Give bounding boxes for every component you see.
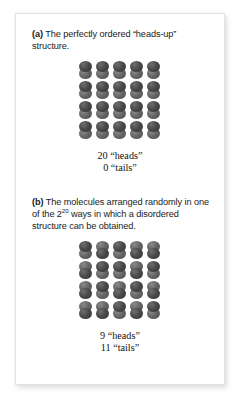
molecule-lobe-top <box>96 261 109 272</box>
molecule-heads <box>146 81 163 101</box>
molecule-lobe-top <box>96 281 109 292</box>
molecule-tails <box>129 261 146 281</box>
panel-a-label: (a) <box>32 29 43 39</box>
molecule-lobe-bottom <box>79 308 92 319</box>
molecule-heads <box>95 121 112 141</box>
molecule-lobe-top <box>79 121 92 132</box>
molecule-heads <box>95 281 112 301</box>
molecule-heads <box>95 61 112 81</box>
molecule-heads <box>129 281 146 301</box>
molecule-tails <box>112 281 129 301</box>
molecule-lobe-bottom <box>96 248 109 259</box>
molecule-heads <box>95 81 112 101</box>
molecule-heads <box>146 101 163 121</box>
figure-card: (a) The perfectly ordered “heads-up” str… <box>15 13 225 385</box>
molecule-lobe-top <box>113 81 126 92</box>
panel-a-caption-text: The perfectly ordered “heads-up” structu… <box>32 29 176 51</box>
molecule-lobe-top <box>147 61 160 72</box>
molecule-heads <box>129 81 146 101</box>
molecule-lobe-top <box>130 281 143 292</box>
molecule-heads <box>129 61 146 81</box>
panel-a-tails-count: 0 “tails” <box>16 162 224 174</box>
panel-a-heads-count: 20 “heads” <box>16 150 224 162</box>
molecule-lobe-top <box>147 301 160 312</box>
molecule-tails <box>78 281 95 301</box>
molecule-lobe-top <box>113 301 126 312</box>
panel-b-caption: (b) The molecules arranged randomly in o… <box>32 196 214 232</box>
molecule-heads <box>95 101 112 121</box>
molecule-lobe-bottom <box>113 288 126 299</box>
molecule-tails <box>146 281 163 301</box>
molecule-heads <box>78 81 95 101</box>
molecule-heads <box>146 301 163 321</box>
molecule-lobe-top <box>96 121 109 132</box>
molecule-tails <box>78 301 95 321</box>
molecule-lobe-top <box>130 101 143 112</box>
molecule-tails <box>95 301 112 321</box>
molecule-heads <box>129 101 146 121</box>
molecule-heads <box>95 261 112 281</box>
molecule-lobe-bottom <box>96 308 109 319</box>
molecule-heads <box>112 301 129 321</box>
molecule-heads <box>146 121 163 141</box>
molecule-lobe-top <box>113 261 126 272</box>
molecule-heads <box>78 121 95 141</box>
molecule-lobe-top <box>130 61 143 72</box>
molecule-lobe-bottom <box>147 248 160 259</box>
figure-page: (a) The perfectly ordered “heads-up” str… <box>0 0 240 399</box>
panel-b-exponent: 20 <box>62 207 69 214</box>
molecule-lobe-bottom <box>130 268 143 279</box>
figure-panel-a: (a) The perfectly ordered “heads-up” str… <box>16 28 224 175</box>
molecule-lobe-top <box>130 121 143 132</box>
molecule-lobe-top <box>147 261 160 272</box>
molecule-lobe-top <box>113 61 126 72</box>
molecule-lobe-top <box>79 241 92 252</box>
molecule-lobe-top <box>79 101 92 112</box>
molecule-lobe-bottom <box>130 248 143 259</box>
molecule-heads <box>78 241 95 261</box>
molecule-lobe-top <box>113 101 126 112</box>
molecule-tails <box>95 241 112 261</box>
molecule-lobe-top <box>130 81 143 92</box>
panel-b-heads-count: 9 “heads” <box>16 330 224 342</box>
molecule-lobe-top <box>147 81 160 92</box>
molecule-heads <box>112 241 129 261</box>
molecule-tails <box>78 261 95 281</box>
molecule-heads <box>112 121 129 141</box>
molecule-heads <box>112 101 129 121</box>
molecule-lobe-top <box>113 121 126 132</box>
panel-b-label: (b) <box>32 197 43 207</box>
molecule-tails <box>129 241 146 261</box>
molecule-lobe-top <box>96 81 109 92</box>
panel-b-tally: 9 “heads” 11 “tails” <box>16 330 224 354</box>
molecule-heads <box>146 61 163 81</box>
molecule-lobe-top <box>147 121 160 132</box>
figure-panel-b: (b) The molecules arranged randomly in o… <box>16 196 224 355</box>
molecule-lobe-top <box>96 61 109 72</box>
panel-a-tally: 20 “heads” 0 “tails” <box>16 150 224 174</box>
molecule-heads <box>78 101 95 121</box>
molecule-lobe-top <box>79 81 92 92</box>
molecule-lobe-bottom <box>79 268 92 279</box>
molecule-lobe-top <box>79 61 92 72</box>
molecule-lobe-bottom <box>130 308 143 319</box>
molecule-lobe-top <box>96 101 109 112</box>
molecule-lobe-bottom <box>147 288 160 299</box>
molecule-heads <box>112 61 129 81</box>
molecule-grid-a <box>16 61 224 141</box>
panel-b-tails-count: 11 “tails” <box>16 342 224 354</box>
molecule-heads <box>112 261 129 281</box>
molecule-heads <box>129 121 146 141</box>
molecule-heads <box>146 261 163 281</box>
molecule-lobe-top <box>113 241 126 252</box>
molecule-grid-b <box>16 241 224 321</box>
molecule-heads <box>112 81 129 101</box>
molecule-tails <box>129 301 146 321</box>
panel-a-caption: (a) The perfectly ordered “heads-up” str… <box>32 28 214 52</box>
molecule-heads <box>78 61 95 81</box>
molecule-tails <box>146 241 163 261</box>
molecule-lobe-bottom <box>79 288 92 299</box>
molecule-lobe-top <box>147 101 160 112</box>
